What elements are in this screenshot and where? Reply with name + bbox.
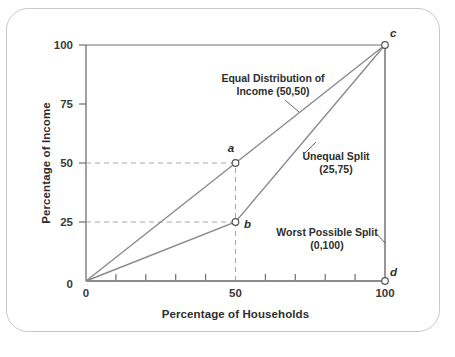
point-label-a: a <box>228 142 235 154</box>
y-tick-label-25: 25 <box>60 216 73 228</box>
y-tick-label-50: 50 <box>60 157 73 169</box>
x-tick-label-50: 50 <box>229 287 242 299</box>
marker-point-d <box>382 278 389 285</box>
annotation-unequal-split: Unequal Split (25,75) <box>302 142 370 175</box>
annotation-equal-distribution: Equal Distribution of Income (50,50) <box>221 72 325 112</box>
annotation-equal-distribution-line2: Income (50,50) <box>237 85 310 97</box>
annotation-worst-possible-split-line1: Worst Possible Split <box>276 226 378 238</box>
x-axis-title: Percentage of Households <box>162 308 309 320</box>
point-label-b: b <box>244 218 251 230</box>
marker-point-c <box>382 42 389 49</box>
y-axis-title: Percentage of Income <box>40 102 52 224</box>
x-tick-label-0: 0 <box>83 287 89 299</box>
annotation-worst-possible-split-line2: (0,100) <box>310 239 343 251</box>
y-tick-label-0: 0 <box>67 278 73 290</box>
annotation-unequal-split-line2: (25,75) <box>319 163 352 175</box>
figure-root: a b c d 100 75 50 25 0 0 50 100 Percenta… <box>0 0 455 357</box>
y-tick-label-100: 100 <box>54 39 73 51</box>
annotation-equal-distribution-leader <box>285 100 299 112</box>
y-tick-label-75: 75 <box>60 98 73 110</box>
marker-point-b <box>232 219 239 226</box>
annotation-equal-distribution-line1: Equal Distribution of <box>221 72 325 84</box>
x-tick-label-100: 100 <box>375 287 394 299</box>
y-axis-ticks <box>79 45 86 222</box>
lorenz-curve-chart: a b c d 100 75 50 25 0 0 50 100 Percenta… <box>0 0 455 357</box>
point-label-d: d <box>390 266 398 278</box>
marker-point-a <box>232 160 239 167</box>
point-label-c: c <box>390 27 397 39</box>
annotation-worst-possible-split: Worst Possible Split (0,100) <box>276 226 385 251</box>
annotation-unequal-split-line1: Unequal Split <box>302 150 370 162</box>
